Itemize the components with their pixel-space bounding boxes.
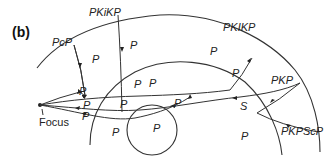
- label-p-inner-core: P: [153, 122, 161, 134]
- label-p-6: P: [134, 78, 142, 90]
- label-p-pkikp-mantle: P: [130, 39, 138, 51]
- label-pkp: PKP: [271, 74, 294, 86]
- label-pkikp-upper: PKiKP: [89, 6, 121, 18]
- seismic-ray-diagram: (b) PcP PKiKP PKIKP PKP PKPScP P P P P P…: [0, 0, 331, 165]
- ray-s-reflected: [257, 83, 300, 113]
- label-p-pkpscp: P: [241, 130, 249, 142]
- label-focus: Focus: [39, 116, 69, 128]
- label-pkpscp: PKPScP: [281, 125, 324, 137]
- label-p-8: P: [174, 97, 182, 109]
- label-p-3: P: [82, 110, 90, 122]
- inner-core-circle: [127, 105, 177, 155]
- label-pcp: PcP: [52, 36, 73, 48]
- label-p-pcp: P: [92, 53, 100, 65]
- label-p-5: P: [120, 98, 128, 110]
- label-s: S: [240, 100, 248, 112]
- label-p-7: P: [149, 77, 157, 89]
- label-p-4: P: [112, 126, 120, 138]
- label-p-1: P: [79, 85, 87, 97]
- label-p-pkp: P: [232, 67, 240, 79]
- label-p-pkikp-exit: P: [210, 45, 218, 57]
- core-mantle-boundary-arc: [90, 62, 282, 155]
- panel-label: (b): [12, 24, 30, 40]
- label-pkikp-lower: PKIKP: [223, 21, 256, 33]
- focus-pointer: [42, 109, 43, 115]
- ray-pkikp: [40, 90, 230, 105]
